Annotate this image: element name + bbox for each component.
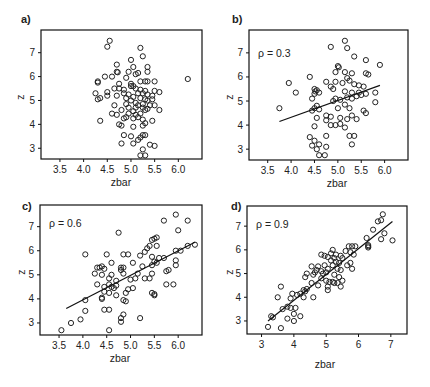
data-point	[185, 76, 190, 81]
data-point	[335, 106, 340, 111]
data-point	[107, 38, 112, 43]
data-point	[150, 97, 155, 102]
data-point	[119, 107, 124, 112]
x-tick-label: 4.5	[100, 164, 114, 175]
x-tick-label: 4.5	[100, 340, 114, 351]
figure: a) zbar z 3.54.04.55.05.56.034567 b) ρ =…	[0, 0, 430, 387]
x-tick-label: 4.0	[284, 165, 298, 176]
data-point	[130, 260, 135, 265]
x-tick-label: 6.0	[378, 165, 392, 176]
data-point	[328, 44, 333, 49]
data-point	[325, 288, 330, 293]
data-point	[138, 45, 143, 50]
data-point	[114, 93, 119, 98]
data-point	[375, 219, 380, 224]
data-point	[185, 218, 190, 223]
data-point	[157, 90, 162, 95]
data-point	[109, 260, 114, 265]
data-point	[130, 286, 135, 291]
panel-a: a) zbar z 3.54.04.55.05.56.034567	[14, 13, 202, 188]
data-point	[114, 293, 119, 298]
panel-c: c) ρ = 0.6 zbar z 3.54.04.55.05.56.03456…	[15, 200, 202, 364]
data-point	[314, 115, 319, 120]
data-point	[338, 284, 343, 289]
correlation-annotation: ρ = 0.9	[256, 218, 289, 230]
data-point	[345, 46, 350, 51]
data-point	[342, 38, 347, 43]
x-tick-label: 5.0	[124, 164, 138, 175]
y-axis-title: z	[223, 94, 235, 99]
data-point	[104, 252, 109, 257]
data-point	[322, 253, 327, 258]
panel-label: b)	[232, 13, 243, 25]
scatter-matrix: a) zbar z 3.54.04.55.05.56.034567 b) ρ =…	[0, 0, 430, 387]
data-point	[349, 142, 354, 147]
data-points	[277, 38, 383, 158]
data-point	[95, 282, 100, 287]
y-tick-label: 7	[28, 221, 34, 232]
x-tick-label: 4.5	[308, 165, 322, 176]
data-point	[342, 125, 347, 130]
data-point	[150, 118, 155, 123]
correlation-annotation: ρ = 0.3	[258, 47, 291, 59]
data-point	[371, 227, 376, 232]
x-axis-title: zbar	[110, 352, 131, 364]
data-point	[363, 58, 368, 63]
data-point	[149, 271, 154, 276]
data-point	[171, 282, 176, 287]
data-point	[317, 153, 322, 158]
data-point	[109, 74, 114, 79]
data-point	[338, 115, 343, 120]
data-point	[291, 318, 296, 323]
data-point	[312, 138, 317, 143]
data-point	[275, 295, 280, 300]
data-point	[310, 96, 315, 101]
y-tick-label: 4	[235, 292, 241, 303]
data-point	[319, 252, 324, 257]
panel-d: d) ρ = 0.9 zbar z 3456734567	[223, 200, 407, 370]
data-point	[361, 84, 366, 89]
data-point	[98, 118, 103, 123]
y-tick-label: 7	[29, 47, 35, 58]
data-point	[324, 278, 329, 283]
x-tick-label: 4.0	[77, 164, 91, 175]
data-point	[68, 320, 73, 325]
data-point	[105, 44, 110, 49]
data-point	[364, 235, 369, 240]
data-point	[312, 124, 317, 129]
data-point	[285, 316, 290, 321]
panel-label: c)	[22, 200, 32, 212]
x-tick-label: 7	[388, 339, 394, 350]
y-tick-label: 6	[235, 244, 241, 255]
x-tick-label: 5	[323, 339, 329, 350]
data-point	[112, 103, 117, 108]
data-point	[347, 106, 352, 111]
data-point	[131, 124, 136, 129]
data-point	[373, 90, 378, 95]
data-point	[314, 147, 319, 152]
x-tick-label: 4.0	[76, 340, 90, 351]
data-point	[316, 283, 321, 288]
x-tick-label: 6.0	[171, 340, 185, 351]
data-point	[350, 266, 355, 271]
data-point	[352, 54, 357, 59]
data-point	[379, 218, 384, 223]
data-point	[310, 143, 315, 148]
data-point	[99, 272, 104, 277]
data-point	[140, 54, 145, 59]
y-tick-label: 4	[237, 120, 243, 131]
data-point	[278, 326, 283, 331]
data-point	[131, 64, 136, 69]
data-point	[333, 79, 338, 84]
y-tick-label: 5	[237, 96, 243, 107]
data-point	[278, 284, 283, 289]
data-point	[340, 80, 345, 85]
data-point	[83, 252, 88, 257]
x-tick-label: 6	[356, 339, 362, 350]
data-point	[92, 271, 97, 276]
data-point	[277, 106, 282, 111]
data-point	[338, 121, 343, 126]
x-tick-label: 5.5	[148, 164, 162, 175]
x-tick-label: 6.0	[171, 164, 185, 175]
data-points	[59, 212, 198, 333]
